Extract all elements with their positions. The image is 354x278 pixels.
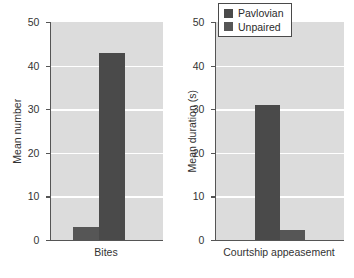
- ytick-label-30: 30: [28, 104, 40, 115]
- bar-unpaired-courtship: [280, 230, 305, 240]
- chart-panel-courtship: 50 40 30 20 10 0 Pavl: [176, 0, 354, 278]
- plot-area-right: 50 40 30 20 10 0: [215, 22, 344, 241]
- ytick-10: 10: [46, 196, 50, 197]
- x-axis-label-left: Bites: [50, 247, 162, 258]
- ytick-10: 10: [211, 196, 215, 197]
- ytick-label-40: 40: [28, 60, 40, 71]
- ytick-label-10: 10: [28, 191, 40, 202]
- legend-label-pavlovian: Pavlovian: [238, 8, 284, 19]
- ytick-label-20: 20: [28, 148, 40, 159]
- y-axis-label-left: Mean number: [12, 76, 23, 186]
- legend-entry-pavlovian: Pavlovian: [224, 8, 284, 19]
- gridline-40: [216, 66, 344, 67]
- ytick-30: 30: [211, 109, 215, 110]
- y-axis-label-right: Mean duration (s): [187, 66, 198, 196]
- legend-entry-unpaired: Unpaired: [224, 22, 284, 33]
- ytick-50: 50: [211, 22, 215, 23]
- legend-label-unpaired: Unpaired: [238, 22, 281, 33]
- ytick-0: 0: [46, 240, 50, 241]
- ytick-label-0: 0: [34, 235, 40, 246]
- x-axis-label-right: Courtship appeasement: [215, 247, 343, 258]
- bar-pavlovian-bites: [99, 53, 125, 241]
- chart-panel-bites: 50 40 30 20 10 0 Mean number Bites: [0, 0, 178, 278]
- ytick-0: 0: [211, 240, 215, 241]
- plot-area-left: 50 40 30 20 10 0: [50, 22, 163, 241]
- legend-swatch-pavlovian: [224, 9, 233, 18]
- ytick-label-0: 0: [199, 235, 205, 246]
- bar-pavlovian-courtship: [255, 105, 280, 240]
- gridline-20: [216, 153, 344, 154]
- ytick-40: 40: [211, 66, 215, 67]
- gridline-30: [216, 109, 344, 110]
- ytick-20: 20: [211, 153, 215, 154]
- legend: Pavlovian Unpaired: [218, 3, 292, 37]
- gridline-10: [216, 196, 344, 197]
- ytick-40: 40: [46, 66, 50, 67]
- ytick-20: 20: [46, 153, 50, 154]
- ytick-label-50: 50: [28, 17, 40, 28]
- ytick-30: 30: [46, 109, 50, 110]
- ytick-label-50: 50: [193, 17, 205, 28]
- bar-unpaired-bites: [73, 227, 99, 240]
- figure-container: 50 40 30 20 10 0 Mean number Bites: [0, 0, 354, 278]
- ytick-50: 50: [46, 22, 50, 23]
- legend-swatch-unpaired: [224, 22, 233, 31]
